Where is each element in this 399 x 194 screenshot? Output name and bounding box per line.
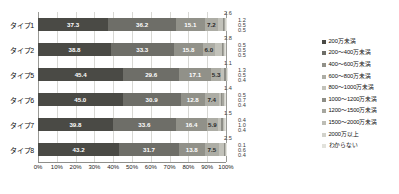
callout-value-label: 2.6 bbox=[224, 10, 232, 16]
callout-value-label: 0.4 bbox=[238, 102, 246, 108]
callout-group: 1.11.30.50.4 bbox=[38, 68, 226, 81]
legend-label: 600～800万未満 bbox=[329, 74, 371, 80]
callout-group: 1.50.41.00.4 bbox=[38, 118, 226, 131]
stacked-bar-chart: タイプ137.336.215.17.22.61.20.50.5タイプ238.83… bbox=[0, 0, 399, 194]
x-axis-ticks: 0%10%20%30%40%50%60%70%80%90%100% bbox=[38, 162, 226, 176]
legend-swatch-icon bbox=[322, 63, 326, 67]
legend-label: 800～1000万未満 bbox=[329, 85, 374, 91]
callout-value-label: 2.5 bbox=[224, 135, 232, 141]
bar-row: タイプ137.336.215.17.22.61.20.50.5 bbox=[38, 18, 226, 31]
callout-value-label: 0.5 bbox=[238, 52, 246, 58]
callout-value-label: 0.4 bbox=[238, 152, 246, 158]
callout-group: 2.61.20.50.5 bbox=[38, 18, 226, 31]
x-tick-label: 70% bbox=[164, 164, 176, 170]
bar-row: タイプ238.833.315.86.03.80.50.50.5 bbox=[38, 43, 226, 56]
x-tick-label: 90% bbox=[201, 164, 213, 170]
callout-value-label: 0.4 bbox=[238, 77, 246, 83]
legend-swatch-icon bbox=[322, 133, 326, 137]
x-tick-label: 0% bbox=[34, 164, 43, 170]
legend-item[interactable]: 800～1000万未満 bbox=[322, 82, 398, 94]
legend-label: 1500～2000万未満 bbox=[329, 120, 378, 126]
legend-label: 1200～1500万未満 bbox=[329, 108, 378, 114]
legend-item[interactable]: 1500～2000万未満 bbox=[322, 117, 398, 129]
row-label-タイプ2: タイプ2 bbox=[10, 45, 34, 55]
x-tick-label: 30% bbox=[88, 164, 100, 170]
legend-label: わからない bbox=[329, 143, 359, 149]
bar-row: タイプ545.429.617.15.31.11.30.50.4 bbox=[38, 68, 226, 81]
bar-row: タイプ645.030.912.87.41.40.50.70.4 bbox=[38, 93, 226, 106]
legend-item[interactable]: 2000万以上 bbox=[322, 129, 398, 141]
bar-segment bbox=[227, 68, 228, 81]
legend-item[interactable]: 1000～1200万未満 bbox=[322, 94, 398, 106]
x-tick-label: 50% bbox=[126, 164, 138, 170]
callout-group: 1.40.50.70.4 bbox=[38, 93, 226, 106]
callout-group: 2.50.10.60.4 bbox=[38, 143, 226, 156]
bar-rows: タイプ137.336.215.17.22.61.20.50.5タイプ238.83… bbox=[38, 12, 226, 162]
row-label-タイプ5: タイプ5 bbox=[10, 70, 34, 80]
legend-label: 200万未満 bbox=[329, 39, 356, 45]
legend-item[interactable]: 200万未満 bbox=[322, 36, 398, 48]
legend-swatch-icon bbox=[322, 75, 326, 79]
legend-label: 1000～1200万未満 bbox=[329, 97, 378, 103]
legend-swatch-icon bbox=[322, 98, 326, 102]
legend-label: 200～400万未満 bbox=[329, 50, 371, 56]
legend-swatch-icon bbox=[322, 40, 326, 44]
callout-value-label: 1.1 bbox=[224, 60, 232, 66]
callout-group: 3.80.50.50.5 bbox=[38, 43, 226, 56]
legend-item[interactable]: わからない bbox=[322, 140, 398, 152]
callout-value-label: 1.4 bbox=[224, 85, 232, 91]
bar-row: タイプ843.231.713.87.52.50.10.60.4 bbox=[38, 143, 226, 156]
x-tick-label: 80% bbox=[182, 164, 194, 170]
legend-label: 2000万以上 bbox=[329, 132, 359, 138]
legend-item[interactable]: 600～800万未満 bbox=[322, 71, 398, 83]
row-label-タイプ6: タイプ6 bbox=[10, 95, 34, 105]
x-tick-label: 40% bbox=[107, 164, 119, 170]
x-tick-label: 20% bbox=[70, 164, 82, 170]
legend-item[interactable]: 400～600万未満 bbox=[322, 59, 398, 71]
row-label-タイプ8: タイプ8 bbox=[10, 145, 34, 155]
x-tick-label: 100% bbox=[218, 164, 233, 170]
legend-swatch-icon bbox=[322, 109, 326, 113]
legend-swatch-icon bbox=[322, 144, 326, 148]
row-label-タイプ7: タイプ7 bbox=[10, 120, 34, 130]
callout-value-label: 3.8 bbox=[224, 35, 232, 41]
legend-item[interactable]: 200～400万未満 bbox=[322, 48, 398, 60]
callout-value-label: 0.4 bbox=[238, 127, 246, 133]
legend-swatch-icon bbox=[322, 86, 326, 90]
x-tick-label: 60% bbox=[145, 164, 157, 170]
chart-legend: 200万未満200～400万未満400～600万未満600～800万未満800～… bbox=[322, 36, 398, 152]
row-label-タイプ1: タイプ1 bbox=[10, 20, 34, 30]
legend-label: 400～600万未満 bbox=[329, 62, 371, 68]
callout-value-label: 1.5 bbox=[224, 110, 232, 116]
callout-value-label: 0.5 bbox=[238, 27, 246, 33]
x-tick-label: 10% bbox=[51, 164, 63, 170]
legend-swatch-icon bbox=[322, 51, 326, 55]
plot-area: タイプ137.336.215.17.22.61.20.50.5タイプ238.83… bbox=[38, 12, 226, 162]
bar-row: タイプ739.833.616.45.91.50.41.00.4 bbox=[38, 118, 226, 131]
legend-swatch-icon bbox=[322, 121, 326, 125]
legend-item[interactable]: 1200～1500万未満 bbox=[322, 106, 398, 118]
